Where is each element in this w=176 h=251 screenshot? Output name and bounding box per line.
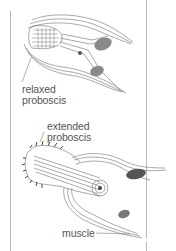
label-extended-proboscis: proboscis [47,132,91,143]
label-relaxed-proboscis: proboscis [22,95,66,106]
label-muscle: muscle [62,228,95,239]
